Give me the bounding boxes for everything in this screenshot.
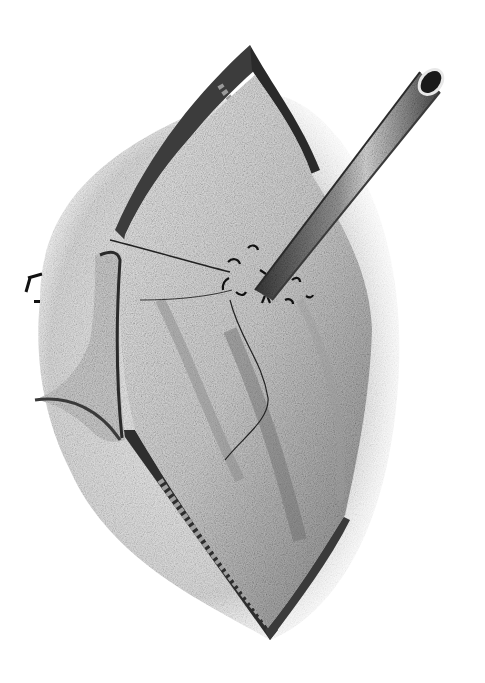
surgical-illustration [0,0,485,683]
illustration-canvas [0,0,485,683]
